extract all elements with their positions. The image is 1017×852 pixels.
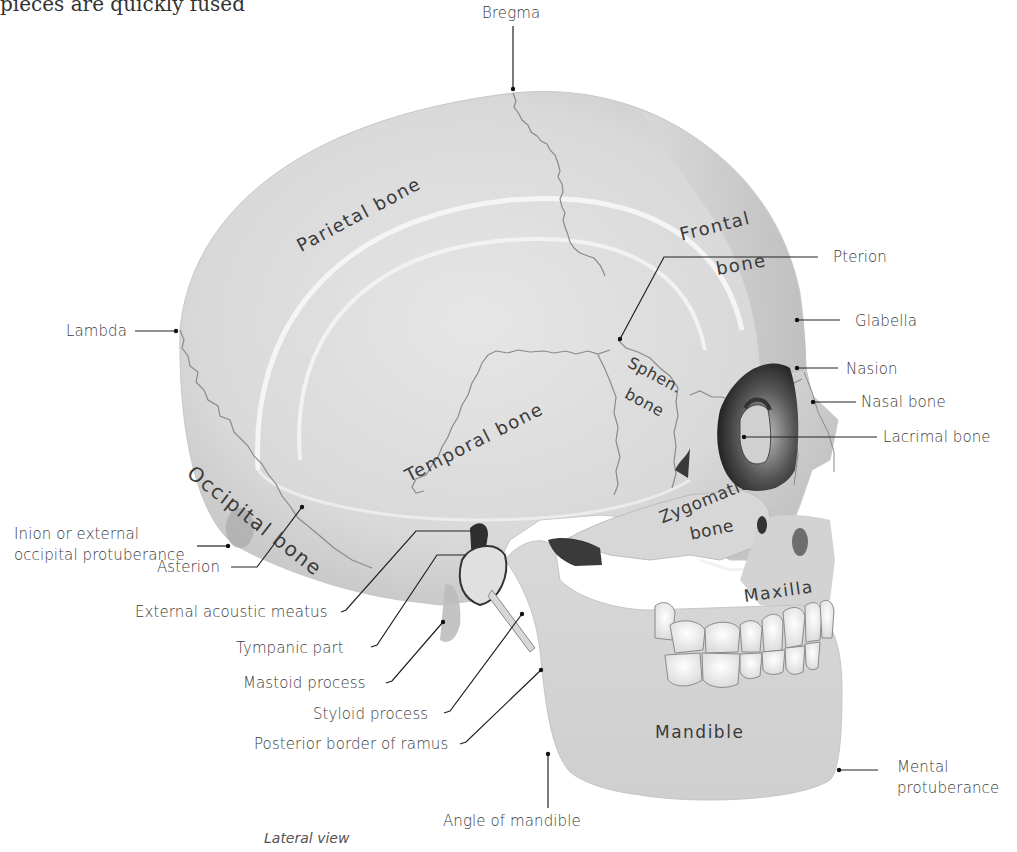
lacrimal-fossa xyxy=(740,405,771,464)
callout-glabella: Glabella xyxy=(855,312,917,330)
callout-lacrimal-bone: Lacrimal bone xyxy=(883,428,991,446)
callout-styloid-process: Styloid process xyxy=(313,705,428,723)
callout-nasal-bone: Nasal bone xyxy=(861,393,946,411)
callout-pterion: Pterion xyxy=(833,248,887,266)
callout-mastoid-process: Mastoid process xyxy=(243,674,366,692)
callout-external-acoustic-meatus: External acoustic meatus xyxy=(135,603,328,621)
callout-angle-of-mandible: Angle of mandible xyxy=(443,812,581,830)
callout-asterion: Asterion xyxy=(157,558,220,576)
skull-diagram: pieces are quickly fused xyxy=(0,0,1017,852)
callout-bregma: Bregma xyxy=(482,4,540,22)
figure-caption: Lateral view xyxy=(264,830,349,846)
callout-tympanic-part: Tympanic part xyxy=(236,639,344,657)
callout-mental-protuberance: Mental protuberance xyxy=(897,757,999,799)
callout-lambda: Lambda xyxy=(66,322,127,340)
label-mandible: Mandible xyxy=(655,722,744,742)
callout-nasion: Nasion xyxy=(846,360,898,378)
callout-posterior-border-ramus: Posterior border of ramus xyxy=(254,735,448,753)
